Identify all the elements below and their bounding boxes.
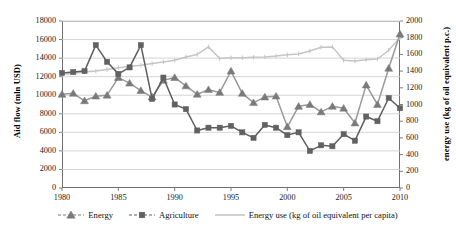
data-marker-square <box>138 43 143 48</box>
data-marker-triangle <box>362 81 370 88</box>
y-tick-label-right: 1400 <box>406 66 440 75</box>
y-tick-label-left: 16000 <box>22 35 56 44</box>
x-tick-label: 2005 <box>324 193 364 202</box>
data-marker-square <box>116 71 121 76</box>
y-tick-label-left: 4000 <box>22 146 56 155</box>
y-tick-label-left: 12000 <box>22 72 56 81</box>
series-line <box>62 34 400 127</box>
y-tick-label-left: 8000 <box>22 109 56 118</box>
data-marker-square <box>296 130 301 135</box>
data-marker-square <box>251 135 256 140</box>
gridlines <box>62 21 400 169</box>
data-marker-square <box>82 69 87 74</box>
y-tick-label-left: 6000 <box>22 127 56 136</box>
y-tick-label-left: 0 <box>22 183 56 192</box>
y-tick-label-right: 1200 <box>406 83 440 92</box>
y-tick-label-left: 14000 <box>22 53 56 62</box>
data-marker-square <box>341 132 346 137</box>
y-tick-label-right: 0 <box>406 183 440 192</box>
y-tick-label-right: 1800 <box>406 33 440 42</box>
y-axis-left-ticks <box>59 21 62 188</box>
data-marker-square <box>273 125 278 130</box>
legend-label: Agriculture <box>159 210 199 220</box>
legend-marker-line-icon <box>215 210 245 220</box>
x-tick-label: 2000 <box>267 193 307 202</box>
y-axis-right-ticks <box>400 21 403 188</box>
data-marker-square <box>319 143 324 148</box>
data-marker-square <box>59 70 64 75</box>
legend-label: Energy <box>88 210 113 220</box>
data-marker-square <box>71 69 76 74</box>
y-tick-label-right: 800 <box>406 116 440 125</box>
legend-item[interactable]: Energy <box>58 210 113 220</box>
data-marker-triangle <box>317 108 325 115</box>
data-marker-square <box>139 212 145 218</box>
data-marker-square <box>397 106 402 111</box>
x-axis-ticks <box>62 188 400 191</box>
data-marker-square <box>375 119 380 124</box>
data-marker-square <box>104 59 109 64</box>
y-tick-label-right: 2000 <box>406 16 440 25</box>
chart-figure: Aid flow (mln USD) energy use (kg of oil… <box>0 0 456 236</box>
legend-item[interactable]: Agriculture <box>129 210 199 220</box>
data-marker-triangle <box>205 86 213 93</box>
data-marker-square <box>206 125 211 130</box>
data-marker-square <box>172 102 177 107</box>
y-tick-label-right: 200 <box>406 166 440 175</box>
x-tick-label: 1990 <box>155 193 195 202</box>
data-marker-triangle <box>283 123 291 130</box>
data-marker-square <box>150 96 155 101</box>
data-marker-triangle <box>126 79 134 86</box>
data-marker-triangle <box>385 65 393 72</box>
x-tick-label: 2010 <box>380 193 420 202</box>
data-marker-square <box>228 123 233 128</box>
chart-legend: EnergyAgricultureEnergy use (kg of oil e… <box>0 210 456 220</box>
data-marker-square <box>386 95 391 100</box>
data-marker-square <box>93 43 98 48</box>
data-marker-triangle <box>227 67 235 74</box>
y-tick-label-right: 1000 <box>406 100 440 109</box>
data-marker-square <box>285 133 290 138</box>
y-tick-label-left: 2000 <box>22 164 56 173</box>
legend-item[interactable]: Energy use (kg of oil equivalent per cap… <box>215 210 398 220</box>
data-marker-square <box>364 114 369 119</box>
data-marker-square <box>195 128 200 133</box>
data-marker-triangle <box>396 30 404 37</box>
y-tick-label-right: 600 <box>406 133 440 142</box>
legend-label: Energy use (kg of oil equivalent per cap… <box>249 210 398 220</box>
y-tick-label-left: 18000 <box>22 16 56 25</box>
data-marker-triangle <box>374 101 382 108</box>
data-marker-square <box>217 125 222 130</box>
data-marker-triangle <box>306 101 314 108</box>
data-marker-square <box>262 122 267 127</box>
legend-marker-square-icon <box>129 210 155 220</box>
y-tick-label-right: 1600 <box>406 49 440 58</box>
data-marker-square <box>330 144 335 149</box>
data-marker-square <box>183 107 188 112</box>
data-marker-triangle <box>171 74 179 81</box>
y-tick-label-right: 400 <box>406 150 440 159</box>
data-marker-square <box>161 75 166 80</box>
data-marker-triangle <box>238 90 246 97</box>
x-tick-label: 1985 <box>98 193 138 202</box>
x-tick-label: 1995 <box>211 193 251 202</box>
series-energy <box>58 30 404 129</box>
y-tick-label-left: 10000 <box>22 90 56 99</box>
data-marker-triangle <box>137 87 145 94</box>
data-marker-square <box>307 148 312 153</box>
data-marker-square <box>240 130 245 135</box>
data-marker-triangle <box>328 103 336 110</box>
x-tick-label: 1980 <box>42 193 82 202</box>
data-marker-square <box>127 65 132 70</box>
data-marker-square <box>352 138 357 143</box>
legend-marker-triangle-icon <box>58 210 84 220</box>
